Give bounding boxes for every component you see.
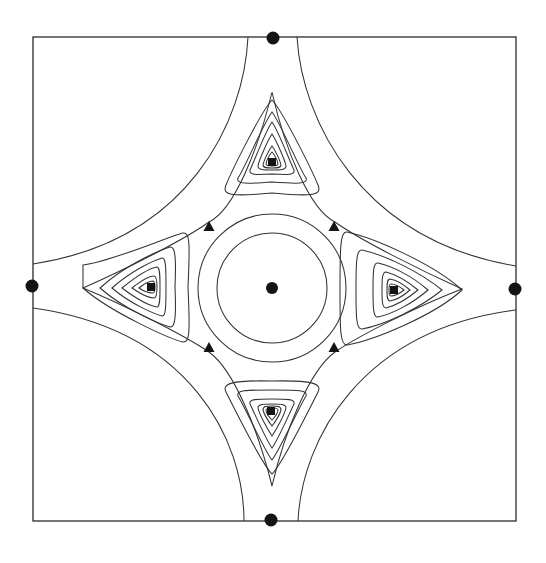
critical-point-markers bbox=[26, 32, 522, 527]
square-marker-left bbox=[147, 283, 155, 291]
lobe-contour-loop bbox=[225, 100, 319, 195]
lobe-left bbox=[83, 233, 189, 342]
edge-dot-marker-left bbox=[26, 280, 39, 293]
lobe-contour-loop bbox=[373, 263, 428, 317]
triangle-marker-upper-left bbox=[204, 221, 215, 231]
lobe-contour-loop bbox=[112, 258, 166, 316]
edge-dot-marker-top bbox=[267, 32, 280, 45]
lobe-top bbox=[225, 100, 319, 195]
edge-dot-marker-right bbox=[509, 283, 522, 296]
outer-star-arc bbox=[298, 310, 516, 521]
triangle-marker-upper-right bbox=[329, 221, 340, 231]
square-marker-right bbox=[390, 286, 398, 294]
outer-star-arc bbox=[33, 37, 248, 264]
lobe-contour-loop bbox=[238, 390, 307, 460]
edge-dot-marker-bottom bbox=[265, 514, 278, 527]
triangle-marker-lower-right bbox=[329, 342, 340, 352]
outer-star-arc bbox=[297, 37, 516, 266]
cell-frame bbox=[33, 37, 516, 521]
lobe-bottom bbox=[225, 381, 319, 474]
square-marker-top bbox=[268, 158, 276, 166]
triangle-marker-lower-left bbox=[204, 342, 215, 352]
square-marker-bottom bbox=[267, 407, 275, 415]
lobe-contour-loop bbox=[250, 122, 294, 175]
center-dot-marker bbox=[266, 282, 278, 294]
outer-star-contours bbox=[33, 37, 516, 521]
contour-diagram bbox=[0, 0, 546, 563]
outer-star-arc bbox=[33, 308, 244, 521]
